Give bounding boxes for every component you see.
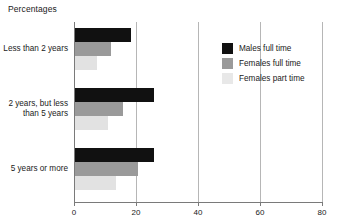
legend-item[interactable]: Females part time bbox=[222, 71, 305, 86]
legend-item[interactable]: Females full time bbox=[222, 56, 305, 71]
medium-gray-swatch bbox=[222, 58, 233, 69]
legend-item-label: Females full time bbox=[239, 59, 301, 68]
category-label-line: 2 years, but less bbox=[0, 99, 68, 109]
category-label-line: Less than 2 years bbox=[0, 44, 68, 54]
x-axis-tick-label: 80 bbox=[318, 208, 327, 217]
gridline bbox=[198, 22, 199, 202]
bar-chart: Percentages 020406080 Less than 2 years2… bbox=[0, 0, 338, 222]
gridline bbox=[322, 22, 323, 202]
category-label-line: 5 years or more bbox=[0, 164, 68, 174]
black-swatch bbox=[222, 43, 233, 54]
x-axis-tick bbox=[136, 202, 137, 206]
chart-legend: Males full timeFemales full timeFemales … bbox=[222, 41, 305, 86]
category-label: 2 years, but lessthan 5 years bbox=[0, 99, 68, 119]
bar bbox=[75, 116, 108, 130]
legend-item-label: Males full time bbox=[239, 44, 291, 53]
x-axis-tick-label: 60 bbox=[256, 208, 265, 217]
bar bbox=[75, 88, 154, 102]
legend-item-label: Females part time bbox=[239, 74, 305, 83]
bar bbox=[75, 148, 154, 162]
bar bbox=[75, 162, 138, 176]
x-axis-tick-label: 20 bbox=[132, 208, 141, 217]
category-label: Less than 2 years bbox=[0, 44, 68, 54]
chart-title: Percentages bbox=[8, 4, 57, 14]
bar bbox=[75, 176, 116, 190]
bar bbox=[75, 42, 111, 56]
bar bbox=[75, 56, 97, 70]
bar bbox=[75, 28, 131, 42]
x-axis-tick-label: 0 bbox=[72, 208, 76, 217]
legend-item[interactable]: Males full time bbox=[222, 41, 305, 56]
x-axis-tick bbox=[198, 202, 199, 206]
category-label-line: than 5 years bbox=[0, 109, 68, 119]
x-axis-tick bbox=[260, 202, 261, 206]
x-axis-tick bbox=[74, 202, 75, 206]
x-axis-tick-label: 40 bbox=[194, 208, 203, 217]
category-label: 5 years or more bbox=[0, 164, 68, 174]
light-gray-swatch bbox=[222, 73, 233, 84]
bar bbox=[75, 102, 123, 116]
x-axis-tick bbox=[322, 202, 323, 206]
